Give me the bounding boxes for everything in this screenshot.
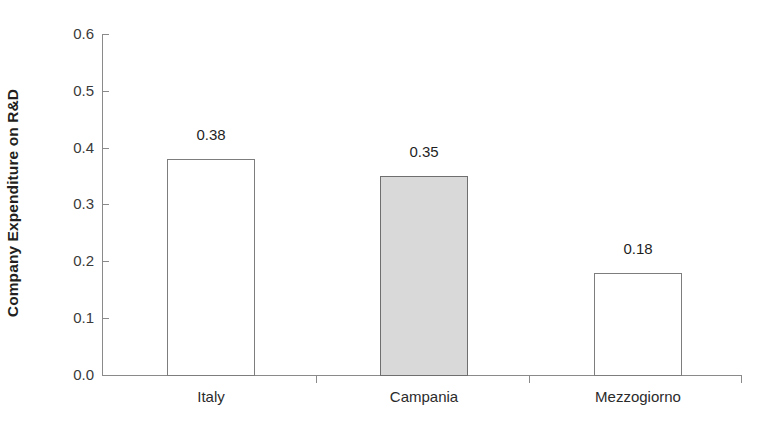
y-tick-label-0.5: 0.5 <box>50 82 94 99</box>
bar-italy[interactable] <box>167 159 255 376</box>
y-tick-mark-0.4 <box>102 148 109 149</box>
bar-value-italy: 0.38 <box>167 126 255 143</box>
y-tick-mark-0.0 <box>102 375 109 376</box>
y-tick-label-0.1: 0.1 <box>50 309 94 326</box>
x-tick-mark-1 <box>316 375 317 383</box>
y-tick-mark-0.6 <box>102 34 109 35</box>
y-tick-label-0.2: 0.2 <box>50 252 94 269</box>
y-tick-mark-0.3 <box>102 204 109 205</box>
bar-value-campania: 0.35 <box>380 143 468 160</box>
bar-chart: Company Expenditure on R&D 0.6 0.5 0.4 0… <box>0 0 771 435</box>
x-category-label-campania: Campania <box>354 388 494 405</box>
y-tick-label-0.4: 0.4 <box>50 139 94 156</box>
x-category-label-mezzogiorno: Mezzogiorno <box>568 388 708 405</box>
x-tick-mark-end <box>741 375 742 383</box>
y-tick-mark-0.1 <box>102 318 109 319</box>
y-axis-title: Company Expenditure on R&D <box>0 33 26 373</box>
bar-campania[interactable] <box>380 176 468 376</box>
x-category-label-italy: Italy <box>141 388 281 405</box>
bar-mezzogiorno[interactable] <box>594 273 682 376</box>
y-tick-mark-0.2 <box>102 261 109 262</box>
y-tick-label-0.3: 0.3 <box>50 195 94 212</box>
y-tick-mark-0.5 <box>102 91 109 92</box>
bar-value-mezzogiorno: 0.18 <box>594 240 682 257</box>
x-tick-mark-2 <box>529 375 530 383</box>
y-tick-label-0.6: 0.6 <box>50 25 94 42</box>
y-tick-label-0.0: 0.0 <box>50 366 94 383</box>
